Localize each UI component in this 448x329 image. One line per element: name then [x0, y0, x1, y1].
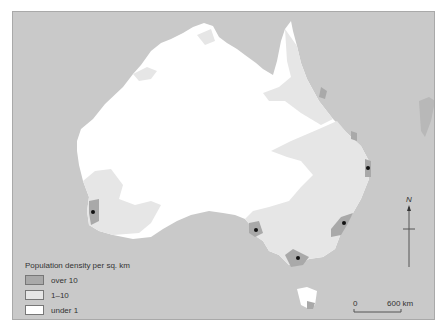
- scale-bar: 0 600 km: [353, 299, 433, 319]
- north-arrow: N: [393, 195, 423, 275]
- north-arrow-icon: [393, 195, 423, 275]
- legend-label: under 1: [51, 306, 78, 315]
- legend-item-under-1: under 1: [25, 304, 78, 316]
- legend-item-1-10: 1–10: [25, 289, 69, 301]
- swatch-1-10: [25, 290, 44, 300]
- scale-line: [353, 299, 433, 319]
- legend-item-cities: cities with over 500 000 population: [21, 318, 169, 320]
- swatch-over-10: [25, 275, 44, 285]
- legend-label: 1–10: [51, 291, 69, 300]
- legend-label: cities with over 500 000 population: [46, 320, 169, 321]
- legend-title: Population density per sq. km: [25, 261, 130, 270]
- city-dot-adelaide: [254, 228, 258, 232]
- map-frame: Population density per sq. km over 10 1–…: [12, 11, 435, 320]
- new-zealand-fragment: [419, 97, 435, 137]
- legend-item-over-10: over 10: [25, 274, 78, 286]
- city-dot-brisbane: [366, 166, 370, 170]
- swatch-under-1: [25, 305, 44, 315]
- city-dot-melbourne: [296, 256, 300, 260]
- legend-label: over 10: [51, 276, 78, 285]
- density-over-10-cairns: [319, 87, 327, 99]
- city-dot-perth: [91, 210, 95, 214]
- city-dot-sydney: [342, 221, 346, 225]
